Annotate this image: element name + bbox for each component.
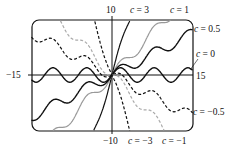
label-c0-pointer xyxy=(190,59,198,70)
label-c05: c = 0.5 xyxy=(194,24,220,34)
label-cm1: c = −1 xyxy=(162,136,187,146)
label-c0: c = 0 xyxy=(196,49,215,59)
y-max-label: 10 xyxy=(106,5,116,15)
label-c3: c = 3 xyxy=(130,5,149,15)
label-c1: c = 1 xyxy=(170,5,189,15)
label-cm3: c = −3 xyxy=(128,136,153,146)
x-min-label: −15 xyxy=(6,70,21,80)
x-max-label: 15 xyxy=(196,71,206,81)
solution-curves-chart: −15 15 10 −10 c = 3 c = 1 c = 0.5 c = 0 … xyxy=(0,0,239,151)
y-min-label: −10 xyxy=(103,136,118,146)
label-cm05: c = −0.5 xyxy=(193,107,225,117)
